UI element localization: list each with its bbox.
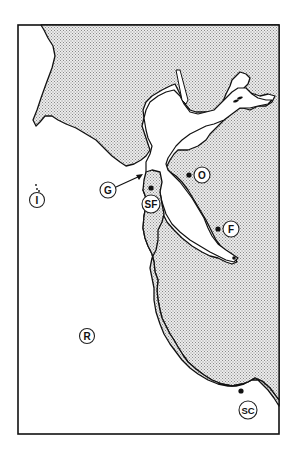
marker-label-I: I	[36, 195, 39, 206]
farallon-island-3	[38, 190, 40, 192]
city-dot-icon	[215, 226, 220, 231]
marker-G[interactable]: G	[100, 182, 116, 198]
marker-label-R: R	[83, 331, 91, 342]
marker-label-SC: SC	[241, 405, 254, 416]
marker-label-G: G	[104, 185, 112, 196]
marker-label-F: F	[228, 224, 234, 235]
farallon-island-2	[36, 188, 38, 190]
city-dot-icon	[186, 172, 191, 177]
marker-label-O: O	[198, 170, 206, 181]
marker-label-SF: SF	[145, 199, 158, 210]
city-dot-icon	[238, 388, 243, 393]
farallon-island-1	[35, 184, 37, 186]
bay-area-map: I G SF O F R SC	[0, 0, 295, 451]
bay-south-end-dot	[232, 256, 236, 260]
marker-I[interactable]: I	[30, 193, 45, 208]
marker-R[interactable]: R	[80, 329, 95, 344]
city-dot-icon	[148, 185, 153, 190]
